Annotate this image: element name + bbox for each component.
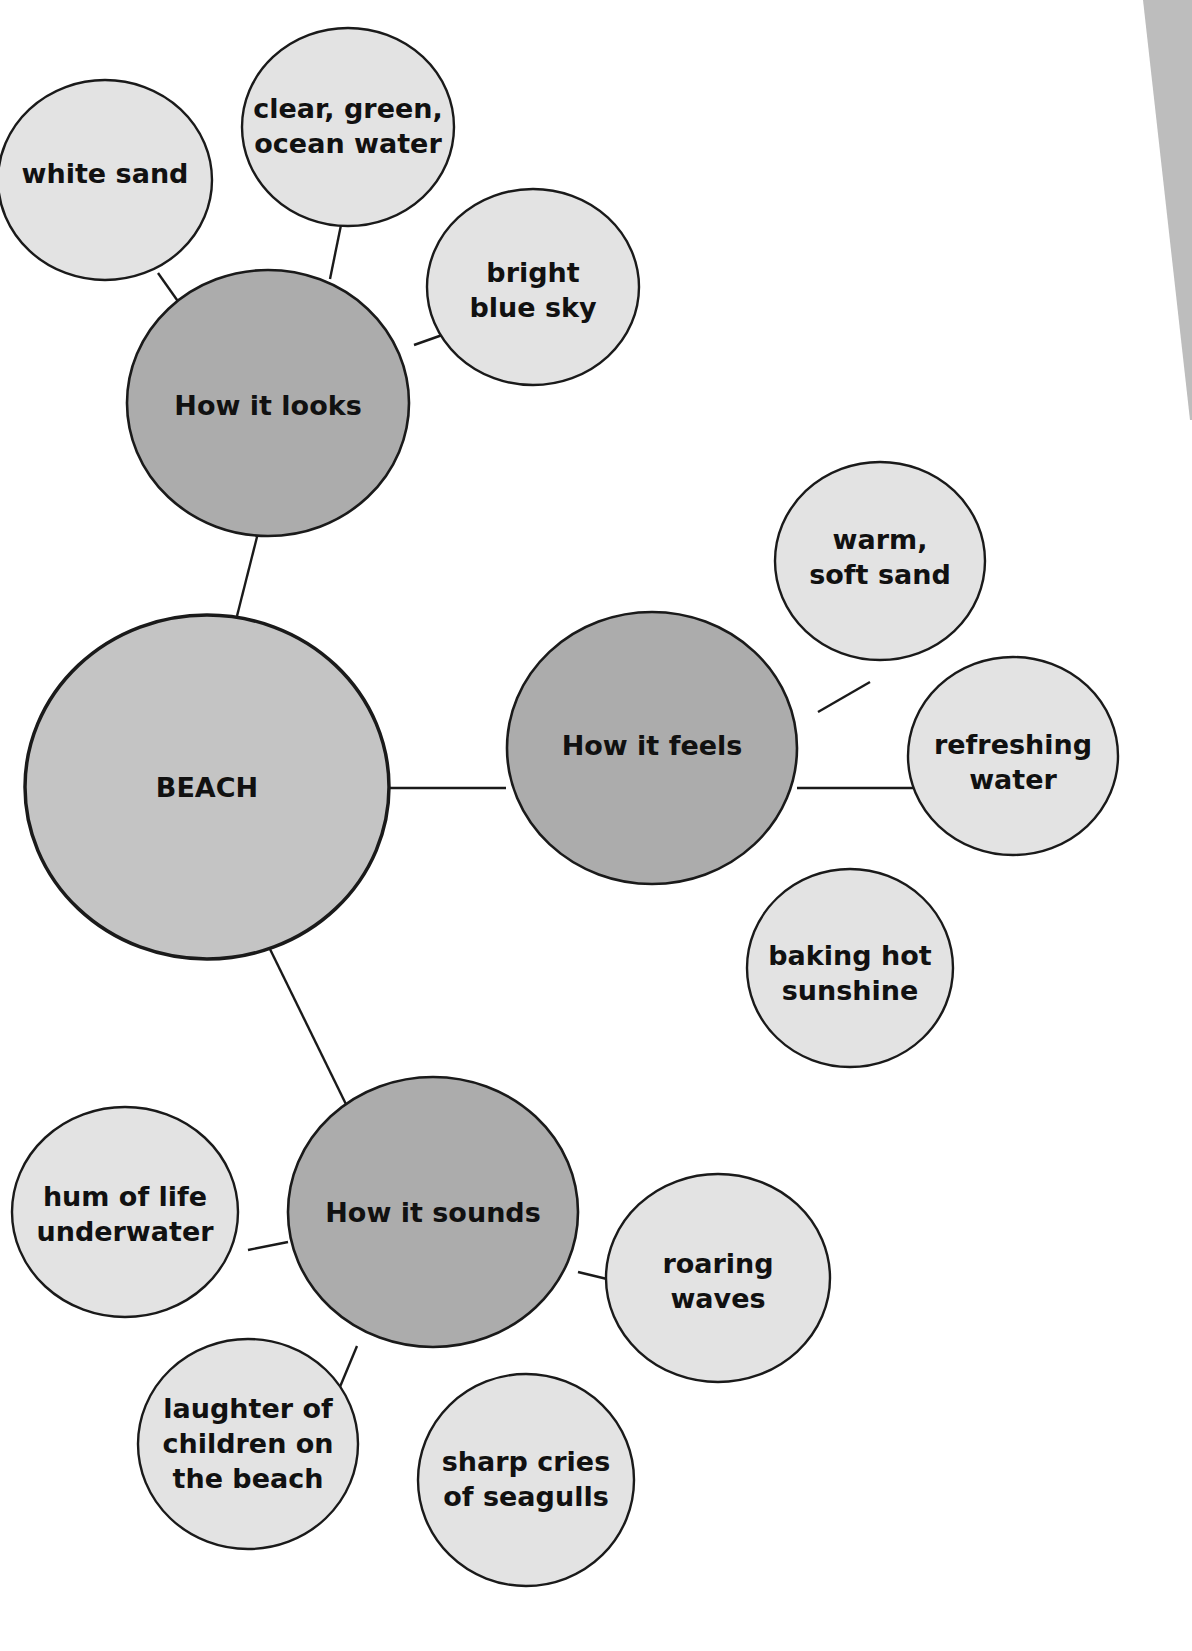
center-label: BEACH (156, 772, 258, 803)
detail-label-line-2: ocean water (254, 128, 442, 159)
connector-sounds-hum (248, 1242, 288, 1250)
category-label-sounds: How it sounds (325, 1197, 541, 1228)
connector-feels-softsand (818, 682, 870, 712)
detail-label-line-2: of seagulls (443, 1481, 608, 1512)
detail-bubble-white-sand: white sand (0, 80, 212, 280)
connector-sounds-waves (578, 1272, 607, 1279)
detail-label-line-1: sharp cries (442, 1446, 611, 1477)
detail-label-line-1: warm, (833, 524, 928, 555)
detail-label-line-1: laughter of (163, 1393, 333, 1424)
detail-label-line-1: clear, green, (253, 93, 443, 124)
category-label-looks: How it looks (174, 390, 361, 421)
center-bubble-beach: BEACH (25, 615, 389, 959)
detail-label-line-2: blue sky (469, 292, 597, 323)
detail-bubble-warm-soft-sand: warm, soft sand (775, 462, 985, 660)
detail-label-line-1: hum of life (43, 1181, 207, 1212)
detail-bubble-laughter-of-children: laughter of children on the beach (138, 1339, 358, 1549)
detail-label-line-1: refreshing (934, 729, 1092, 760)
detail-label-line-2: water (969, 764, 1057, 795)
connector-beach-looks (237, 533, 258, 616)
detail-bubble-clear-green-ocean-water: clear, green, ocean water (242, 28, 454, 226)
detail-label-line-2: soft sand (809, 559, 951, 590)
page-edge-shadow (1143, 0, 1192, 420)
detail-bubble-refreshing-water: refreshing water (908, 657, 1118, 855)
detail-label-line-2: children on (162, 1428, 333, 1459)
connector-looks-clearwater (330, 225, 341, 279)
category-bubble-sounds: How it sounds (288, 1077, 578, 1347)
detail-bubble-bright-blue-sky: bright blue sky (427, 189, 639, 385)
detail-bubble-roaring-waves: roaring waves (606, 1174, 830, 1382)
detail-label-line-3: the beach (173, 1463, 324, 1494)
category-bubble-feels: How it feels (507, 612, 797, 884)
detail-label: white sand (22, 158, 189, 189)
detail-label-line-1: baking hot (768, 940, 931, 971)
detail-label-line-2: waves (670, 1283, 765, 1314)
detail-label-line-2: sunshine (782, 975, 919, 1006)
category-bubble-looks: How it looks (127, 270, 409, 536)
detail-bubble-hum-of-life-underwater: hum of life underwater (12, 1107, 238, 1317)
bubble-map-diagram: BEACH How it looks How it feels How it s… (0, 0, 1192, 1651)
detail-label-line-1: bright (486, 257, 579, 288)
category-label-feels: How it feels (562, 730, 743, 761)
detail-label-line-1: roaring (662, 1248, 773, 1279)
detail-bubble-sharp-cries-of-seagulls: sharp cries of seagulls (418, 1374, 634, 1586)
detail-bubble-baking-hot-sunshine: baking hot sunshine (747, 869, 953, 1067)
detail-label-line-2: underwater (36, 1216, 214, 1247)
